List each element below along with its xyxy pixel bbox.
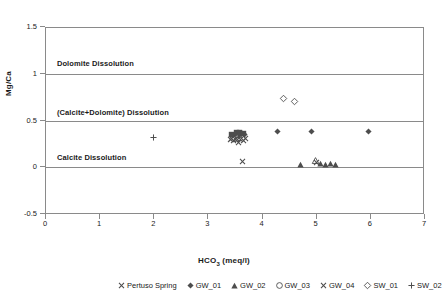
- legend-item-gw-02[interactable]: GW_02: [230, 281, 265, 290]
- x-axis-tick-label: 3: [195, 219, 219, 228]
- y-axis-tick-label: 1: [0, 69, 37, 78]
- y-axis-tick: [40, 26, 45, 27]
- x-axis-tick-label: 0: [33, 219, 57, 228]
- legend-label: Pertuso Spring: [127, 281, 177, 290]
- x-axis-title: HCO3 (meq/l): [0, 256, 448, 267]
- dolomite-dissolution-label: Dolomite Dissolution: [57, 59, 134, 68]
- legend-item-sw-02[interactable]: SW_02: [407, 281, 442, 290]
- legend-marker-triangle-filled-icon: [230, 281, 239, 290]
- plot-area: [45, 27, 424, 214]
- calcite-dissolution-label: Calcite Dissolution: [57, 153, 126, 162]
- legend-marker-x-icon: [319, 281, 328, 290]
- y-axis-tick-label: -0.5: [0, 209, 37, 218]
- y-axis-tick: [40, 166, 45, 167]
- y-axis-tick-label: 1.5: [0, 22, 37, 31]
- legend-marker-x-icon: [117, 281, 126, 290]
- x-axis-tick-label: 7: [412, 219, 436, 228]
- dolomite-line: [46, 74, 423, 75]
- y-axis-tick: [40, 120, 45, 121]
- x-axis-title-base: HCO: [198, 256, 216, 265]
- legend-item-pertuso-spring[interactable]: Pertuso Spring: [117, 281, 177, 290]
- legend-item-gw-03[interactable]: GW_03: [275, 281, 310, 290]
- x-axis-tick-label: 1: [87, 219, 111, 228]
- legend-label: GW_02: [240, 281, 265, 290]
- legend-label: GW_03: [285, 281, 310, 290]
- x-axis-tick-label: 5: [304, 219, 328, 228]
- legend-item-gw-04[interactable]: GW_04: [319, 281, 354, 290]
- x-axis-tick-label: 2: [141, 219, 165, 228]
- calcite-line: [46, 167, 423, 168]
- x-axis-title-unit: (meq/l): [220, 256, 250, 265]
- x-axis-tick-label: 4: [250, 219, 274, 228]
- legend-marker-circle-open-icon: [275, 281, 284, 290]
- legend-label: SW_01: [373, 281, 398, 290]
- calcite-dolomite-line: [46, 121, 423, 122]
- x-axis-tick-label: 6: [358, 219, 382, 228]
- legend-marker-diamond-filled-icon: [186, 281, 195, 290]
- legend-marker-diamond-open-icon: [363, 281, 372, 290]
- legend-marker-plus-icon: [407, 281, 416, 290]
- legend-label: GW_01: [196, 281, 221, 290]
- y-axis-tick: [40, 73, 45, 74]
- chart-legend: Pertuso SpringGW_01GW_02GW_03GW_04SW_01S…: [0, 276, 448, 294]
- y-axis-tick-label: 0.5: [0, 116, 37, 125]
- legend-label: SW_02: [417, 281, 442, 290]
- legend-item-gw-01[interactable]: GW_01: [186, 281, 221, 290]
- legend-item-sw-01[interactable]: SW_01: [363, 281, 398, 290]
- y-axis-tick-label: 0: [0, 162, 37, 171]
- legend-label: GW_04: [329, 281, 354, 290]
- calcite-dolomite-dissolution-label: (Calcite+Dolomite) Dissolution: [57, 108, 169, 117]
- chart-figure: Mg/Ca HCO3 (meq/l) Pertuso SpringGW_01GW…: [0, 0, 448, 302]
